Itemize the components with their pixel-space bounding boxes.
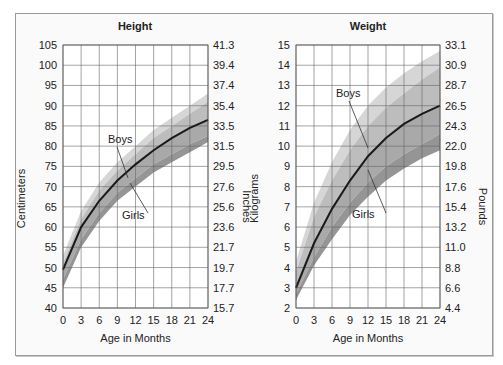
y-tick-label: 11 [279,120,290,132]
y-tick-label-right: 11.0 [445,241,466,253]
y-tick-label-right: 26.5 [445,100,466,112]
x-tick-label: 6 [329,314,335,326]
y-tick-label: 15 [278,39,290,51]
y-tick-label: 5 [284,241,290,253]
y-tick-label-right: 21.7 [213,241,234,253]
x-tick-label: 0 [293,314,299,326]
x-tick-label: 15 [148,314,160,326]
y-axis-label-right: Pounds [477,188,489,226]
y-tick-label-right: 31.5 [213,140,234,152]
y-tick-label: 14 [278,59,290,71]
y-tick-label-right: 28.7 [445,79,466,91]
y-tick-label: 70 [45,181,57,193]
y-tick-label-right: 39.4 [213,59,234,71]
x-tick-label: 21 [184,314,196,326]
y-tick-label: 60 [45,221,57,233]
y-tick-label: 40 [45,302,57,314]
y-tick-label-right: 29.5 [213,160,234,172]
y-tick-label: 4 [284,262,290,274]
y-axis-label: Kilograms [248,174,260,223]
x-axis-label: Age in Months [333,332,404,344]
girls-label: Girls [352,208,375,220]
y-tick-label-right: 41.3 [213,39,234,51]
y-tick-label: 2 [284,302,290,314]
y-tick-label: 100 [39,59,57,71]
y-tick-label: 7 [284,201,290,213]
y-tick-label: 6 [284,221,290,233]
boys-label: Boys [336,87,361,99]
y-tick-label-right: 4.4 [445,302,460,314]
y-tick-label-right: 15.4 [445,201,466,213]
y-axis-label: Centimeters [15,168,27,228]
y-tick-label: 75 [45,160,57,172]
y-tick-label-right: 27.6 [213,181,234,193]
y-tick-label: 65 [45,201,57,213]
y-tick-label-right: 33.5 [213,120,234,132]
y-tick-label-right: 17.7 [213,282,234,294]
x-tick-label: 12 [129,314,141,326]
chart-title: Height [118,20,153,32]
y-tick-label: 50 [45,262,57,274]
x-tick-label: 24 [434,314,446,326]
x-tick-label: 9 [114,314,120,326]
y-tick-label-right: 15.7 [213,302,234,314]
x-axis-label: Age in Months [100,332,171,344]
y-tick-label-right: 19.7 [213,262,234,274]
y-tick-label: 85 [45,120,57,132]
y-tick-label-right: 25.6 [213,201,234,213]
y-tick-label-right: 30.9 [445,59,466,71]
x-tick-label: 0 [60,314,66,326]
x-tick-label: 6 [96,314,102,326]
growth-charts: Height40455055606570758085909510010515.7… [0,0,503,365]
y-tick-label: 45 [45,282,57,294]
girls-label: Girls [122,209,145,221]
y-tick-label-right: 35.4 [213,100,234,112]
x-tick-label: 3 [78,314,84,326]
x-tick-label: 12 [362,314,374,326]
x-tick-label: 21 [416,314,428,326]
y-tick-label: 8 [284,181,290,193]
x-tick-label: 15 [380,314,392,326]
boys-label: Boys [108,133,133,145]
y-tick-label: 3 [284,282,290,294]
y-tick-label: 105 [39,39,57,51]
y-tick-label: 12 [278,100,290,112]
y-tick-label-right: 19.8 [445,160,466,172]
y-tick-label-right: 33.1 [445,39,466,51]
x-tick-label: 9 [347,314,353,326]
y-tick-label: 9 [284,160,290,172]
y-tick-label-right: 22.0 [445,140,466,152]
y-tick-label-right: 23.6 [213,221,234,233]
x-tick-label: 18 [166,314,178,326]
y-tick-label: 80 [45,140,57,152]
y-tick-label-right: 24.3 [445,120,466,132]
x-tick-label: 3 [311,314,317,326]
x-tick-label: 18 [398,314,410,326]
y-tick-label: 95 [45,79,57,91]
chart-title: Weight [350,20,387,32]
y-tick-label-right: 17.6 [445,181,466,193]
y-tick-label-right: 8.8 [445,262,460,274]
y-tick-label: 13 [278,79,290,91]
y-tick-label: 90 [45,100,57,112]
y-tick-label: 55 [45,241,57,253]
y-tick-label: 10 [278,140,290,152]
y-tick-label-right: 6.6 [445,282,460,294]
y-tick-label-right: 13.2 [445,221,466,233]
x-tick-label: 24 [202,314,214,326]
y-tick-label-right: 37.4 [213,79,234,91]
